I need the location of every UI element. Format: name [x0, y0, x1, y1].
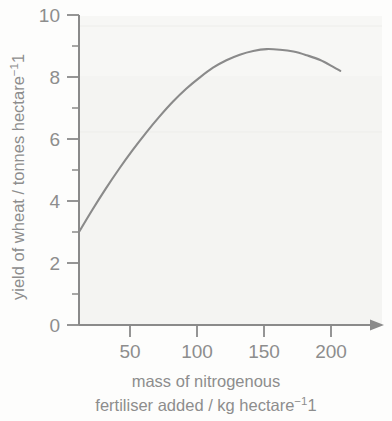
y-tick-label-4: 4 — [49, 191, 60, 212]
y-axis-tick-labels: 0 2 4 6 8 10 — [39, 5, 61, 336]
y-tick-label-6: 6 — [49, 129, 60, 150]
chart-figure: 0 2 4 6 8 10 50 100 150 200 yield of whe… — [0, 0, 392, 421]
y-tick-label-2: 2 — [49, 253, 60, 274]
paper-texture — [80, 16, 382, 324]
x-axis-ticks — [130, 325, 331, 337]
x-tick-label-200: 200 — [315, 341, 347, 362]
x-axis-label-line1: mass of nitrogenous — [132, 372, 281, 390]
x-axis-label-line2: fertiliser added / kg hectare−11 — [95, 395, 316, 414]
x-tick-label-150: 150 — [248, 341, 280, 362]
line-chart: 0 2 4 6 8 10 50 100 150 200 yield of whe… — [0, 0, 392, 421]
y-tick-label-10: 10 — [39, 5, 60, 26]
y-axis-label: yield of wheat / tonnes hectare−11 — [8, 54, 27, 300]
x-tick-label-50: 50 — [119, 341, 140, 362]
x-axis-tick-labels: 50 100 150 200 — [119, 341, 346, 362]
x-tick-label-100: 100 — [181, 341, 213, 362]
y-axis-minor-ticks — [72, 46, 79, 294]
y-tick-label-8: 8 — [49, 67, 60, 88]
y-tick-label-0: 0 — [49, 315, 60, 336]
